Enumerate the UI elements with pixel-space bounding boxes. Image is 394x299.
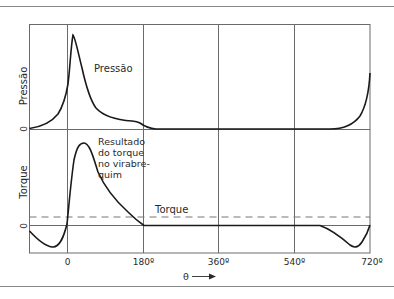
x-axis-arrow-icon bbox=[209, 274, 216, 280]
x-tick-720: 720º bbox=[361, 257, 382, 267]
pressure-curve bbox=[30, 35, 371, 129]
torque-result-curve bbox=[30, 143, 371, 247]
y-label-pressure: Pressão bbox=[18, 67, 29, 106]
torque-mean-annotation: Torque bbox=[154, 204, 188, 215]
x-tick-180: 180º bbox=[133, 257, 154, 267]
chart-canvas: Pressão Torque 0 0 Pressão Resultado do … bbox=[0, 0, 394, 299]
x-axis-theta-label: θ bbox=[183, 271, 189, 282]
y-label-torque: Torque bbox=[18, 165, 29, 199]
y-zero-pressure: 0 bbox=[19, 126, 29, 132]
torque-result-annotation-2: do torque bbox=[98, 147, 144, 158]
torque-result-annotation-3: no virabre- bbox=[98, 158, 150, 169]
pressure-annotation: Pressão bbox=[94, 63, 133, 74]
x-tick-540: 540º bbox=[284, 257, 305, 267]
torque-result-annotation-4: quim bbox=[98, 169, 122, 180]
x-tick-360: 360º bbox=[208, 257, 229, 267]
y-zero-torque: 0 bbox=[19, 223, 29, 229]
torque-result-annotation-1: Resultado bbox=[98, 136, 145, 147]
x-tick-0: 0 bbox=[65, 257, 71, 267]
